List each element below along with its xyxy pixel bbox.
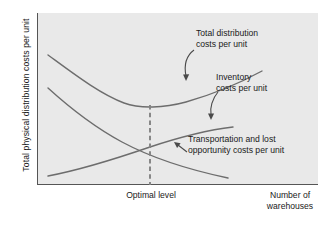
annotation-transport-line1: Transportation and lost [188,134,284,145]
x-axis-label-line2: warehouses [267,201,313,211]
annotation-transportation-costs: Transportation and lost opportunity cost… [188,134,284,156]
x-axis-label-line1: Number of [270,190,310,200]
annotation-inventory-line2: costs per unit [216,83,267,94]
annotation-total-line2: costs per unit [196,39,258,50]
arrowhead-total-icon [183,74,189,81]
arrow-to-transportation-curve [178,145,187,152]
annotation-inventory-line1: Inventory [216,72,267,83]
arrow-to-inventory-curve [211,92,218,114]
chart-figure: Total physical distribution costs per un… [0,0,332,225]
arrowhead-transportation-icon [174,142,181,148]
arrowhead-inventory-icon [208,113,214,120]
annotation-transport-line2: opportunity costs per unit [188,145,284,156]
annotation-total-line1: Total distribution [196,28,258,39]
annotation-inventory-costs: Inventory costs per unit [216,72,267,94]
y-axis-label: Total physical distribution costs per un… [21,5,31,185]
x-axis-label-number-of-warehouses: Number of warehouses [250,190,330,211]
x-axis-label-optimal-level: Optimal level [96,190,206,200]
arrow-to-total-curve [185,50,194,76]
annotation-total-distribution-costs: Total distribution costs per unit [196,28,258,50]
